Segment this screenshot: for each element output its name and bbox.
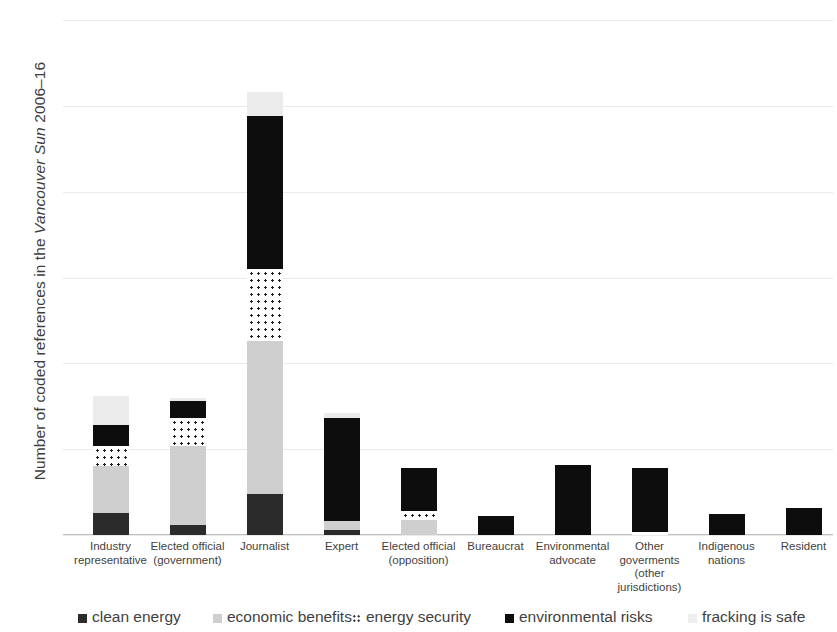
legend-item-clean[interactable]: clean energy (78, 608, 181, 626)
bar-segment-econ[interactable] (324, 521, 360, 530)
bar-segment-econ[interactable] (247, 341, 283, 494)
legend-label: clean energy (92, 608, 181, 626)
bar-segment-env[interactable] (93, 425, 129, 446)
bar-segment-clean[interactable] (93, 513, 129, 535)
bar-column[interactable] (324, 413, 360, 535)
bar-segment-sec[interactable] (632, 532, 668, 535)
chart-legend: clean energyeconomic benefitsenergy secu… (0, 608, 837, 632)
bar-segment-frack[interactable] (93, 396, 129, 425)
y-axis-title-suffix: 2006–16 (31, 62, 48, 127)
bar-column[interactable] (632, 468, 668, 535)
plot-area: 050100150200250300 (63, 20, 833, 535)
gridline (63, 535, 833, 536)
bar-column[interactable] (93, 396, 129, 535)
bar-segment-env[interactable] (247, 116, 283, 269)
bar-segment-env[interactable] (170, 401, 206, 418)
legend-swatch-icon (213, 614, 222, 623)
legend-label: energy security (366, 608, 471, 626)
gridline (63, 106, 833, 107)
bar-segment-env[interactable] (786, 508, 822, 535)
bar-segment-env[interactable] (632, 468, 668, 532)
bar-column[interactable] (786, 508, 822, 535)
bar-segment-clean[interactable] (324, 530, 360, 535)
bar-column[interactable] (170, 398, 206, 535)
bar-segment-frack[interactable] (247, 92, 283, 116)
y-axis-title-prefix: Number of coded references in the (31, 234, 48, 480)
bar-segment-env[interactable] (478, 516, 514, 535)
bar-segment-env[interactable] (324, 418, 360, 521)
bar-segment-sec[interactable] (93, 446, 129, 467)
bar-column[interactable] (709, 514, 745, 535)
gridline (63, 192, 833, 193)
y-axis-title-italic: Vancouver Sun (31, 127, 48, 234)
bar-column[interactable] (247, 92, 283, 535)
bar-column[interactable] (401, 468, 437, 535)
legend-label: fracking is safe (702, 608, 805, 626)
legend-item-sec[interactable]: energy security (352, 608, 471, 626)
bar-segment-sec[interactable] (247, 269, 283, 341)
bar-segment-env[interactable] (709, 514, 745, 535)
legend-swatch-icon (352, 614, 361, 623)
legend-swatch-icon (688, 614, 697, 623)
bar-column[interactable] (555, 465, 591, 535)
gridline (63, 363, 833, 364)
bar-column[interactable] (478, 516, 514, 535)
gridline (63, 20, 833, 21)
gridline (63, 278, 833, 279)
bar-segment-clean[interactable] (247, 494, 283, 535)
bar-segment-env[interactable] (401, 468, 437, 511)
bar-segment-econ[interactable] (401, 520, 437, 535)
legend-label: environmental risks (519, 608, 653, 626)
bar-segment-econ[interactable] (93, 466, 129, 512)
stacked-bar-chart: Number of coded references in the Vancou… (0, 0, 837, 632)
x-axis-category-label: Resident (757, 540, 837, 554)
legend-swatch-icon (78, 614, 87, 623)
legend-item-econ[interactable]: economic benefits (213, 608, 352, 626)
legend-item-env[interactable]: environmental risks (505, 608, 653, 626)
legend-label: economic benefits (227, 608, 352, 626)
legend-item-frack[interactable]: fracking is safe (688, 608, 805, 626)
bar-segment-sec[interactable] (170, 418, 206, 445)
bar-segment-econ[interactable] (170, 446, 206, 525)
bar-segment-env[interactable] (555, 465, 591, 535)
y-axis-title: Number of coded references in the Vancou… (31, 1, 49, 541)
bar-segment-clean[interactable] (170, 525, 206, 535)
bar-segment-sec[interactable] (401, 511, 437, 520)
legend-swatch-icon (505, 614, 514, 623)
